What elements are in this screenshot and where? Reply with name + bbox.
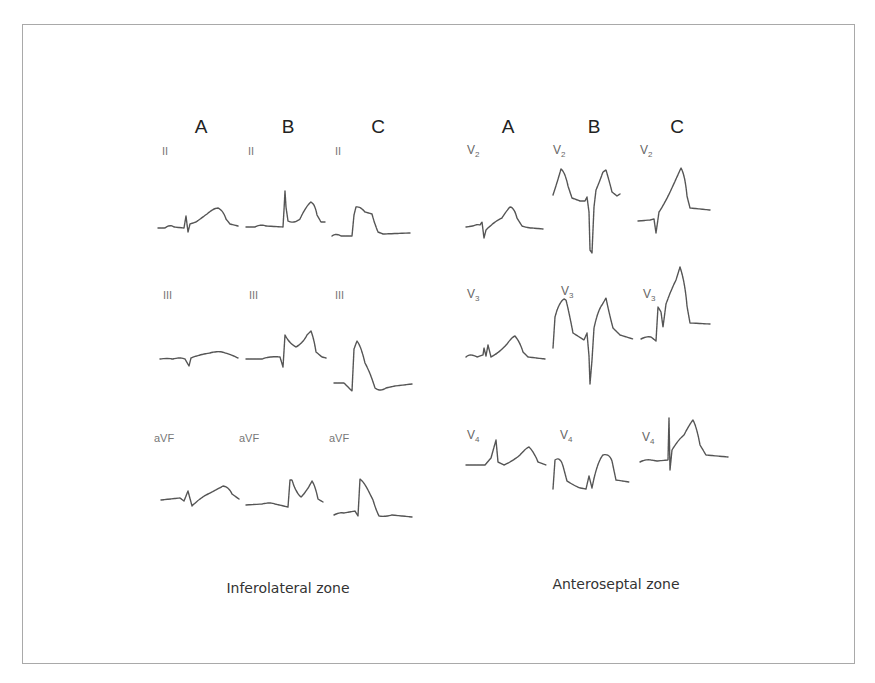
trace-v4-b [553,455,629,489]
trace-v4-a [466,440,546,465]
trace-v4-c [640,418,728,470]
trace-iii-b [246,331,326,367]
trace-ii-c [332,207,410,236]
trace-avf-c [334,479,412,517]
inferolateral-zone-label: Inferolateral zone [226,580,349,596]
trace-v2-a [466,207,543,238]
trace-iii-a [160,352,238,366]
trace-v3-c [641,267,710,341]
trace-ii-a [158,208,238,232]
trace-ii-b [246,191,325,227]
trace-v2-b [553,169,620,253]
trace-avf-a [161,486,239,506]
trace-avf-b [246,480,323,507]
anteroseptal-zone-label: Anteroseptal zone [552,576,679,592]
trace-v2-c [638,168,710,233]
ecg-traces [0,0,875,683]
trace-v3-b [553,298,633,384]
trace-iii-c [334,341,412,391]
trace-v3-a [466,336,545,359]
